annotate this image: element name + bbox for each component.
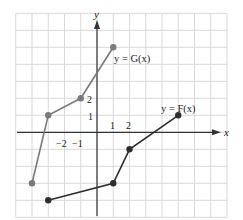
f-data-point [126, 146, 132, 152]
x-tick-minus-2: −2 [56, 138, 67, 149]
g-data-point [29, 180, 35, 186]
y-axis-arrow-icon [94, 20, 100, 29]
g-data-point [45, 112, 51, 118]
y-axis-label: y [93, 8, 99, 20]
function-graph: x y 2 1 1 2 −2 −1 y = G(x) y = F(x) [0, 0, 243, 220]
g-series-label: y = G(x) [114, 53, 151, 65]
x-axis-arrow-icon [212, 129, 221, 135]
x-tick-1: 1 [110, 120, 115, 131]
x-tick-2: 2 [126, 120, 131, 131]
series-layer [29, 44, 182, 203]
f-data-point [110, 180, 116, 186]
x-tick-minus-1: −1 [72, 138, 83, 149]
f-series-label: y = F(x) [161, 103, 196, 115]
g-data-point [78, 95, 84, 101]
f-label-text: y = F(x) [161, 103, 196, 115]
y-tick-1: 1 [88, 111, 93, 122]
f-data-point [45, 197, 51, 203]
g-label-text: y = G(x) [114, 53, 151, 65]
x-axis-label: x [223, 126, 229, 138]
g-data-point [110, 44, 116, 50]
y-tick-2: 2 [87, 94, 92, 105]
